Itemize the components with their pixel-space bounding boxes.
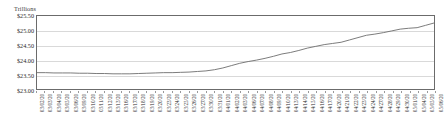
x-axis-tick	[138, 91, 139, 93]
x-axis-tick	[435, 91, 436, 93]
y-axis-tick-label: $23.50	[17, 72, 34, 79]
y-axis-labels: $23.00$23.50$24.00$24.50$25.00$25.50	[0, 0, 36, 92]
x-axis-tick	[197, 91, 198, 93]
x-axis-tick-label: 03/18/20	[140, 94, 146, 112]
x-axis-tick	[172, 91, 173, 93]
x-axis-tick	[427, 91, 428, 93]
x-axis-tick	[240, 91, 241, 93]
x-axis-tick	[129, 91, 130, 93]
x-axis-tick-label: 03/10/20	[90, 94, 96, 112]
x-axis-tick	[61, 91, 62, 93]
x-axis-tick-label: 03/05/20	[64, 94, 70, 112]
x-axis-tick	[180, 91, 181, 93]
x-axis-tick	[359, 91, 360, 93]
x-axis-tick-label: 03/24/20	[174, 94, 180, 112]
x-axis-tick-label: 05/06/20	[438, 94, 444, 112]
x-axis-tick-label: 04/09/20	[276, 94, 282, 112]
x-axis-tick	[78, 91, 79, 93]
x-axis-tick	[257, 91, 258, 93]
x-axis-tick	[384, 91, 385, 93]
x-axis-tick	[53, 91, 54, 93]
x-axis-tick-label: 04/29/20	[395, 94, 401, 112]
x-axis-tick	[410, 91, 411, 93]
x-axis-tick	[104, 91, 105, 93]
x-axis-tick-label: 04/23/20	[361, 94, 367, 112]
x-axis-tick	[393, 91, 394, 93]
x-axis-tick	[163, 91, 164, 93]
y-axis-tick-label: $24.00	[17, 57, 34, 64]
x-axis-tick-label: 03/13/20	[115, 94, 121, 112]
x-axis-tick	[121, 91, 122, 93]
x-axis-tick	[44, 91, 45, 93]
x-axis-tick-label: 04/10/20	[285, 94, 291, 112]
x-axis-tick	[274, 91, 275, 93]
x-axis-tick-label: 03/09/20	[81, 94, 87, 112]
x-axis-tick-label: 03/30/20	[208, 94, 214, 112]
x-axis-tick-label: 03/12/20	[107, 94, 113, 112]
x-axis-tick	[231, 91, 232, 93]
x-axis-tick	[316, 91, 317, 93]
x-axis-tick	[223, 91, 224, 93]
x-axis-tick	[87, 91, 88, 93]
x-axis-tick	[350, 91, 351, 93]
x-axis-tick-label: 03/02/20	[39, 94, 45, 112]
x-axis-tick	[70, 91, 71, 93]
x-axis-tick-label: 04/27/20	[378, 94, 384, 112]
x-axis-tick-label: 04/20/20	[336, 94, 342, 112]
x-axis-tick	[189, 91, 190, 93]
x-axis-tick-label: 04/30/20	[404, 94, 410, 112]
x-axis-tick-label: 03/25/20	[183, 94, 189, 112]
x-axis-tick-label: 03/06/20	[73, 94, 79, 112]
x-axis-tick	[282, 91, 283, 93]
y-axis-tick-label: $23.00	[17, 87, 34, 94]
x-axis-tick-label: 04/16/20	[319, 94, 325, 112]
x-axis-tick	[265, 91, 266, 93]
x-axis-tick-label: 04/24/20	[370, 94, 376, 112]
y-axis-tick-label: $25.50	[17, 12, 34, 19]
x-axis-tick	[308, 91, 309, 93]
x-axis-tick-label: 03/23/20	[166, 94, 172, 112]
y-axis-tick-label: $25.00	[17, 27, 34, 34]
x-axis-tick	[112, 91, 113, 93]
x-axis-tick	[342, 91, 343, 93]
x-axis-tick-label: 04/14/20	[302, 94, 308, 112]
x-axis-tick-label: 04/21/20	[344, 94, 350, 112]
x-axis-tick-label: 03/03/20	[47, 94, 53, 112]
series-line-money-supply	[37, 16, 434, 89]
x-axis-tick	[155, 91, 156, 93]
x-axis-tick-label: 04/22/20	[353, 94, 359, 112]
x-axis-tick	[376, 91, 377, 93]
x-axis-tick	[333, 91, 334, 93]
x-axis-tick-label: 03/19/20	[149, 94, 155, 112]
x-axis-tick	[418, 91, 419, 93]
plot-area	[36, 15, 435, 90]
x-axis-tick-label: 03/11/20	[98, 94, 104, 112]
x-axis-tick-label: 04/06/20	[251, 94, 257, 112]
x-axis-tick-label: 03/26/20	[191, 94, 197, 112]
x-axis-tick-label: 05/04/20	[421, 94, 427, 112]
x-axis-tick	[206, 91, 207, 93]
x-axis-tick-label: 05/05/20	[429, 94, 435, 112]
x-axis-tick	[248, 91, 249, 93]
x-axis-tick	[95, 91, 96, 93]
x-axis-tick	[299, 91, 300, 93]
x-axis-tick	[36, 91, 37, 93]
x-axis-tick-label: 03/04/20	[56, 94, 62, 112]
x-axis-tick-label: 04/13/20	[293, 94, 299, 112]
x-axis-tick-label: 03/27/20	[200, 94, 206, 112]
x-axis-tick-label: 04/15/20	[310, 94, 316, 112]
x-axis-tick-label: 04/28/20	[387, 94, 393, 112]
y-axis-tick-label: $24.50	[17, 42, 34, 49]
x-axis-labels: 03/02/2003/03/2003/04/2003/05/2003/06/20…	[36, 91, 435, 135]
x-axis-tick-label: 04/17/20	[327, 94, 333, 112]
x-axis-tick-label: 04/03/20	[242, 94, 248, 112]
x-axis-tick-label: 04/07/20	[259, 94, 265, 112]
x-axis-tick	[325, 91, 326, 93]
x-axis-tick	[401, 91, 402, 93]
x-axis-tick	[367, 91, 368, 93]
x-axis-tick	[146, 91, 147, 93]
x-axis-tick-label: 03/20/20	[157, 94, 163, 112]
x-axis-tick	[291, 91, 292, 93]
x-axis-tick-label: 03/17/20	[132, 94, 138, 112]
